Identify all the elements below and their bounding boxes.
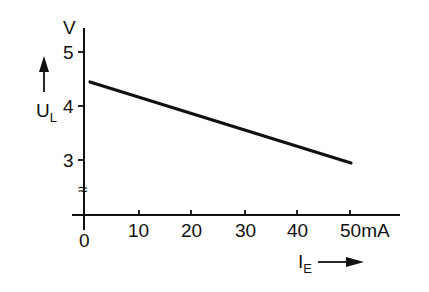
chart: V 5 4 3 ≈ UL 0 10 20 30 40 50mA IE [0, 0, 429, 292]
x-tick-30: 30 [235, 220, 256, 241]
x-tick-40: 40 [287, 220, 308, 241]
x-tick-50: 50mA [340, 220, 390, 241]
y-tick-3: 3 [63, 150, 74, 171]
data-line-ul [90, 82, 351, 163]
y-tick-5: 5 [63, 42, 74, 63]
x-tick-0: 0 [79, 230, 90, 251]
y-tick-4: 4 [63, 96, 74, 117]
x-tick-10: 10 [128, 220, 149, 241]
y-unit: V [63, 17, 76, 38]
x-label: IE [298, 251, 312, 276]
axis-break-icon: ≈ [78, 180, 87, 199]
y-label: UL [36, 100, 57, 125]
x-tick-20: 20 [181, 220, 202, 241]
